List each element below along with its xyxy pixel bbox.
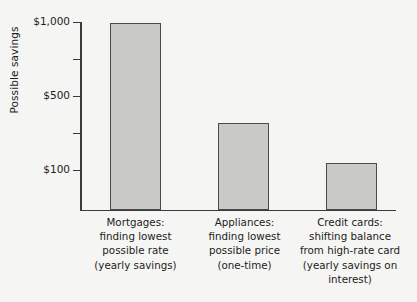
y-axis-tick-500 [73,96,82,98]
bar-appliances [218,123,269,210]
y-axis-tick-100 [73,170,82,172]
y-axis-tick-750 [73,59,81,61]
bar-credit-cards [326,163,377,210]
y-axis-label-500: $500 [4,89,70,101]
y-axis-tick-250 [73,133,81,135]
x-axis-label-credit-cards: Credit cards: shifting balance from high… [277,215,417,286]
y-axis-tick-1000 [73,22,82,24]
y-axis-line [80,22,82,210]
bar-mortgages [110,23,161,210]
bar-chart: Possible savings $1,000 $500 $100 Mortga… [0,0,417,302]
y-axis-label-1000: $1,000 [4,15,70,27]
y-axis-title: Possible savings [5,15,23,125]
y-axis-label-100: $100 [4,163,70,175]
